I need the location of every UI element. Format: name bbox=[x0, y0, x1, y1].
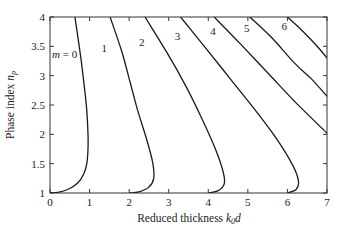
curve-label-m0: m = 0 bbox=[52, 48, 78, 60]
x-axis-ticks: 01234567 bbox=[47, 17, 330, 208]
y-tick-label: 2 bbox=[40, 128, 46, 140]
y-axis-label: Phase index np bbox=[4, 71, 18, 139]
curve-m6 bbox=[287, 17, 327, 58]
x-tick-label: 0 bbox=[47, 196, 53, 208]
x-tick-label: 3 bbox=[166, 196, 172, 208]
x-tick-label: 6 bbox=[285, 196, 291, 208]
curve-m5 bbox=[250, 17, 327, 96]
curve-labels: m = 0123456 bbox=[52, 20, 288, 60]
curve-label-m2: 2 bbox=[139, 36, 145, 48]
y-tick-label: 3.5 bbox=[31, 40, 45, 52]
y-tick-label: 4 bbox=[40, 11, 46, 23]
curve-m2 bbox=[145, 17, 225, 193]
curve-m0 bbox=[50, 17, 88, 193]
x-tick-label: 1 bbox=[87, 196, 93, 208]
y-tick-label: 1.5 bbox=[31, 158, 45, 170]
curve-label-m3: 3 bbox=[175, 30, 181, 42]
x-tick-label: 7 bbox=[324, 196, 330, 208]
curve-label-m5: 5 bbox=[244, 22, 250, 34]
y-tick-label: 2.5 bbox=[31, 99, 45, 111]
curve-m1 bbox=[110, 17, 154, 193]
curve-label-m4: 4 bbox=[210, 25, 216, 37]
x-tick-label: 5 bbox=[245, 196, 251, 208]
plot-frame bbox=[50, 17, 327, 193]
curve-label-m1: 1 bbox=[101, 42, 107, 54]
y-tick-label: 3 bbox=[40, 70, 46, 82]
curve-label-m6: 6 bbox=[281, 20, 287, 32]
chart: 01234567 11.522.533.54 m = 0123456 Reduc… bbox=[0, 0, 343, 231]
x-tick-label: 4 bbox=[206, 196, 212, 208]
curve-m4 bbox=[214, 17, 327, 133]
y-tick-label: 1 bbox=[40, 187, 46, 199]
x-axis-label: Reduced thickness k0d bbox=[137, 212, 241, 226]
x-tick-label: 2 bbox=[126, 196, 132, 208]
curves bbox=[50, 17, 327, 193]
